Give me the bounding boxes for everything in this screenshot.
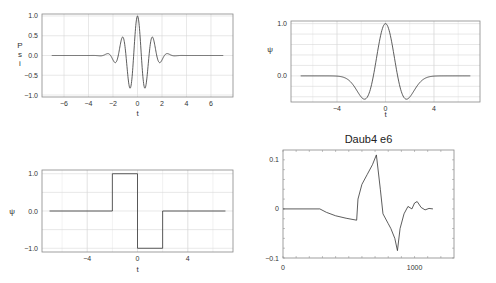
x-axis-label: t <box>136 109 139 118</box>
y-axis-label: ψ <box>9 207 15 216</box>
y-tick-label: 1.0 <box>277 20 287 27</box>
x-tick-label: 4 <box>186 255 190 262</box>
x-tick-label: 0 <box>281 264 285 271</box>
axes-frame <box>283 150 454 258</box>
y-tick-label: 0.1 <box>269 156 279 163</box>
y-axis-label: i <box>19 59 21 68</box>
y-axis-label: P <box>17 41 22 50</box>
x-tick-label: 6 <box>209 100 213 107</box>
y-tick-label: −1.0 <box>24 92 38 99</box>
x-tick-label: 4 <box>432 105 436 112</box>
y-tick-label: −0.1 <box>265 255 279 262</box>
x-tick-label: −4 <box>85 100 93 107</box>
chart-title: Daub4 e6 <box>345 133 393 145</box>
y-tick-label: 1.0 <box>28 170 38 177</box>
y-tick-label: 0 <box>275 205 279 212</box>
x-tick-label: 4 <box>185 100 189 107</box>
y-tick-label: 1.0 <box>28 12 38 19</box>
x-tick-label: 0 <box>136 255 140 262</box>
x-tick-label: −4 <box>333 105 341 112</box>
y-axis-label: ψ <box>267 45 273 54</box>
x-tick-label: −6 <box>60 100 68 107</box>
data-series-line <box>50 174 226 249</box>
y-tick-label: 0.5 <box>28 32 38 39</box>
y-tick-label: 0.0 <box>28 208 38 215</box>
morlet-wavelet-panel: −6−4−20246−1.0−0.50.00.51.0tPsi <box>17 12 233 118</box>
data-series-line <box>283 155 433 251</box>
x-tick-label: 0 <box>136 100 140 107</box>
y-tick-label: 0.0 <box>28 52 38 59</box>
haar-wavelet-panel: −404−1.00.01.0tψ <box>9 170 233 274</box>
x-tick-label: −2 <box>109 100 117 107</box>
x-tick-label: −4 <box>83 255 91 262</box>
wavelet-figure: −6−4−20246−1.0−0.50.00.51.0tPsi−4040.01.… <box>0 0 496 283</box>
x-axis-label: t <box>136 265 139 274</box>
daubechies-wavelet-panel: 01000−0.100.1Daub4 e6 <box>265 133 454 271</box>
y-axis-label: s <box>18 50 22 59</box>
x-tick-label: 2 <box>160 100 164 107</box>
mexican-hat-wavelet-panel: −4040.01.0tψ <box>267 20 480 119</box>
y-tick-label: −0.5 <box>24 72 38 79</box>
y-tick-label: −1.0 <box>24 245 38 252</box>
y-tick-label: 0.0 <box>277 72 287 79</box>
x-tick-label: 1000 <box>407 264 423 271</box>
